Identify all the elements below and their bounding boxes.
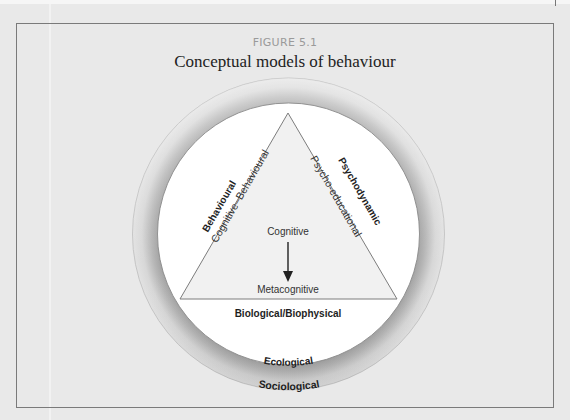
label-biological-biophysical: Biological/Biophysical <box>235 308 342 319</box>
conceptual-models-diagram: Behavioural Cognitive–Behavioural Psycho… <box>0 0 570 420</box>
label-cognitive: Cognitive <box>267 226 309 237</box>
label-metacognitive: Metacognitive <box>257 284 319 295</box>
